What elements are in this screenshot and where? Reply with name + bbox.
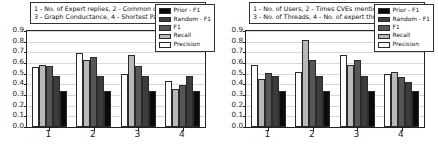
bar-random-f1 — [316, 76, 323, 127]
y-axis-tick-mark — [24, 95, 27, 96]
x-axis-tick-label: 4 — [179, 129, 185, 139]
bar-precision — [384, 74, 391, 127]
y-axis-tick-label: 0.6 — [219, 58, 243, 65]
legend-item-label: Prior - F1 — [174, 8, 201, 14]
bar-group — [251, 31, 286, 127]
legend-item-label: Precision — [393, 42, 419, 48]
bar-precision — [251, 65, 258, 127]
y-axis-tick-mark — [243, 74, 246, 75]
bar-f1 — [309, 60, 316, 127]
chart-panel-right: 1 - No. of Users, 2 - Times CVEs mention… — [219, 0, 438, 153]
y-axis-tick-label: 0.3 — [0, 90, 24, 97]
y-axis-tick-label: 0.5 — [0, 69, 24, 76]
bar-recall — [347, 65, 354, 127]
x-axis-tick-label: 2 — [309, 129, 315, 139]
y-axis-tick-label: 0.8 — [219, 37, 243, 44]
bar-recall — [172, 89, 179, 127]
legend-item[interactable]: Random - F1 — [159, 15, 211, 23]
legend-swatch-icon — [378, 8, 390, 14]
bar-prior-f1 — [368, 91, 375, 127]
y-axis-tick-mark — [243, 42, 246, 43]
y-axis-tick-mark — [24, 106, 27, 107]
bar-group — [76, 31, 111, 127]
legend-item[interactable]: Precision — [159, 41, 211, 49]
y-axis-tick-mark — [24, 42, 27, 43]
legend-swatch-icon — [159, 42, 171, 48]
y-axis-tick-mark — [243, 95, 246, 96]
y-axis-tick-mark — [243, 52, 246, 53]
legend-item[interactable]: F1 — [378, 24, 430, 32]
bar-f1 — [398, 77, 405, 127]
y-axis-tick-mark — [24, 84, 27, 85]
y-axis-tick-label: 0.7 — [219, 48, 243, 55]
legend-item-label: F1 — [393, 25, 400, 31]
chart-panel-left: 1 - No. of Expert replies, 2 - Common co… — [0, 0, 219, 153]
legend-item[interactable]: Recall — [159, 32, 211, 40]
y-axis-tick-label: 0.6 — [0, 58, 24, 65]
y-axis-tick-label: 0.4 — [219, 80, 243, 87]
bar-prior-f1 — [279, 91, 286, 127]
legend-item[interactable]: Prior - F1 — [159, 7, 211, 15]
legend-item-label: F1 — [174, 25, 181, 31]
bar-f1 — [265, 73, 272, 127]
bar-prior-f1 — [60, 91, 67, 127]
y-axis-tick-label: 0.3 — [219, 90, 243, 97]
legend-item[interactable]: Recall — [378, 32, 430, 40]
y-axis-tick-mark — [243, 63, 246, 64]
legend-item[interactable]: Precision — [378, 41, 430, 49]
y-axis-tick-label: 0.1 — [219, 112, 243, 119]
y-axis-tick-label: 0.9 — [219, 26, 243, 33]
legend-item-label: Prior - F1 — [393, 8, 420, 14]
y-axis-tick-mark — [24, 127, 27, 128]
bar-f1 — [179, 85, 186, 127]
bar-recall — [258, 79, 265, 127]
y-axis-tick-mark — [243, 116, 246, 117]
x-axis-tick-label: 2 — [90, 129, 96, 139]
bar-recall — [39, 65, 46, 127]
x-axis-tick-label: 3 — [353, 129, 359, 139]
y-axis-tick-mark — [243, 31, 246, 32]
figure-container: 1 - No. of Expert replies, 2 - Common co… — [0, 0, 438, 153]
legend-swatch-icon — [378, 17, 390, 23]
legend-item[interactable]: Prior - F1 — [378, 7, 430, 15]
x-axis-tick-label: 1 — [45, 129, 51, 139]
legend-swatch-icon — [378, 34, 390, 40]
bar-f1 — [46, 66, 53, 127]
legend-item-label: Recall — [174, 33, 192, 39]
bar-random-f1 — [272, 76, 279, 127]
y-axis-tick-label: 0.0 — [0, 122, 24, 129]
bar-random-f1 — [405, 82, 412, 127]
bar-recall — [302, 40, 309, 127]
y-axis-tick-mark — [243, 84, 246, 85]
bar-recall — [83, 60, 90, 127]
chart-legend-left: Prior - F1Random - F1F1RecallPrecision — [155, 4, 215, 52]
y-axis-tick-label: 0.2 — [0, 101, 24, 108]
bar-group — [295, 31, 330, 127]
bar-group — [340, 31, 375, 127]
bar-f1 — [90, 57, 97, 127]
x-axis-tick-label: 4 — [398, 129, 404, 139]
y-axis-tick-label: 0.5 — [219, 69, 243, 76]
legend-swatch-icon — [159, 8, 171, 14]
bar-recall — [391, 72, 398, 127]
legend-item[interactable]: F1 — [159, 24, 211, 32]
legend-item[interactable]: Random - F1 — [378, 15, 430, 23]
bar-prior-f1 — [412, 91, 419, 127]
y-axis-tick-mark — [24, 74, 27, 75]
bar-f1 — [135, 66, 142, 127]
bar-precision — [32, 67, 39, 127]
bar-group — [121, 31, 156, 127]
chart-legend-right: Prior - F1Random - F1F1RecallPrecision — [374, 4, 434, 52]
bar-prior-f1 — [149, 91, 156, 127]
legend-swatch-icon — [159, 34, 171, 40]
legend-item-label: Recall — [393, 33, 411, 39]
bar-precision — [121, 74, 128, 127]
y-axis-tick-label: 0.9 — [0, 26, 24, 33]
bar-recall — [128, 55, 135, 127]
legend-swatch-icon — [378, 25, 390, 31]
bar-precision — [295, 72, 302, 127]
y-axis-tick-label: 0.1 — [0, 112, 24, 119]
x-axis-tick-label: 1 — [264, 129, 270, 139]
y-axis-tick-mark — [24, 63, 27, 64]
y-axis-tick-label: 0.2 — [219, 101, 243, 108]
